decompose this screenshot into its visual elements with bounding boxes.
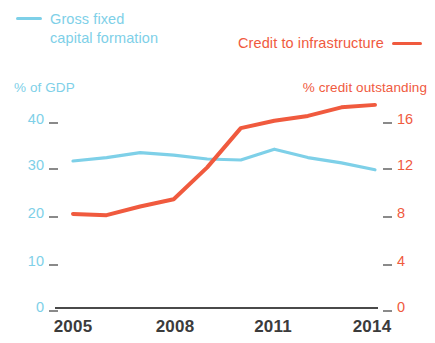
x-axis-tick-2008: 2008 (156, 317, 195, 337)
plot-area (0, 0, 435, 343)
series-line-gross-fixed-capital-formation (73, 149, 375, 170)
chart-container: Gross fixed capital formation Credit to … (0, 0, 435, 343)
x-axis-tick-2011: 2011 (254, 317, 292, 337)
x-axis-baseline (55, 307, 378, 309)
x-axis-tick-2005: 2005 (54, 317, 93, 337)
x-axis-tick-2014: 2014 (353, 317, 392, 337)
